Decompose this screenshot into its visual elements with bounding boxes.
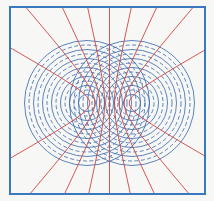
background <box>0 0 214 201</box>
interference-figure <box>0 0 214 201</box>
interference-diagram <box>0 0 214 201</box>
